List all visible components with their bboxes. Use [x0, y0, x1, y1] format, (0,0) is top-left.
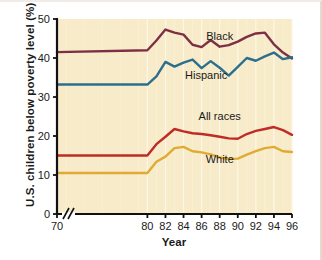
series-label-hispanic: Hispanic: [185, 69, 228, 81]
y-tick-label: 50: [38, 13, 50, 25]
x-tick-label: 70: [51, 220, 63, 232]
x-tick-label: 90: [232, 220, 244, 232]
chart-screenshot: 0102030405070808284868890929496 BlackHis…: [0, 0, 322, 260]
x-tick-label: 88: [214, 220, 226, 232]
x-tick-label: 92: [250, 220, 262, 232]
y-axis-title: U.S. children below poverty level (%): [24, 21, 36, 207]
y-tick-label: 10: [38, 169, 50, 181]
x-axis-title: Year: [55, 236, 293, 248]
chart-canvas: 0102030405070808284868890929496 BlackHis…: [0, 0, 322, 260]
x-tick-label: 82: [159, 220, 171, 232]
x-tick-label: 80: [141, 220, 153, 232]
y-tick-label: 30: [38, 91, 50, 103]
x-tick-label: 84: [177, 220, 189, 232]
x-tick-label: 86: [195, 220, 207, 232]
y-tick-label: 20: [38, 130, 50, 142]
x-tick-label: 96: [286, 220, 298, 232]
y-tick-label: 40: [38, 52, 50, 64]
series-label-all-races: All races: [199, 110, 242, 122]
y-tick-label: 0: [44, 208, 50, 220]
series-label-white: White: [206, 153, 234, 165]
x-tick-label: 94: [268, 220, 280, 232]
line-chart-figure: 0102030405070808284868890929496 BlackHis…: [0, 0, 322, 260]
series-label-black: Black: [206, 30, 233, 42]
